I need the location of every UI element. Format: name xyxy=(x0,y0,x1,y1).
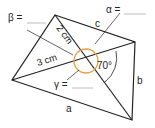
side-a-label: a xyxy=(66,103,72,114)
diagonal-2cm-label: 2 cm xyxy=(54,23,75,46)
beta-label: β = xyxy=(8,12,23,23)
alpha-label: α = xyxy=(106,4,121,15)
angle-70-label: 70° xyxy=(97,60,112,71)
gamma-pointer xyxy=(67,70,79,80)
quadrilateral xyxy=(12,15,135,120)
quadrilateral-diagram: β = α = γ = c b a 3 cm 2 cm 70° xyxy=(0,0,155,128)
gamma-label: γ = xyxy=(54,79,68,90)
side-c-label: c xyxy=(95,18,100,29)
side-b-label: b xyxy=(137,75,143,86)
diagonal-3cm-label: 3 cm xyxy=(35,51,58,68)
angle-circle xyxy=(74,49,98,73)
